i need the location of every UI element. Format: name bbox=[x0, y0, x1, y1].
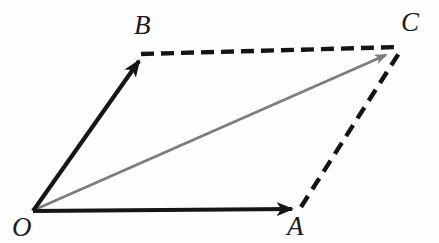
vector-parallelogram-figure: O A B C bbox=[0, 0, 439, 243]
dashed-edge-AC bbox=[301, 50, 401, 207]
point-label-C: C bbox=[401, 9, 419, 36]
point-label-B: B bbox=[134, 12, 151, 39]
vector-OA bbox=[33, 209, 292, 211]
figure-canvas bbox=[0, 0, 439, 243]
dashed-edge-BC bbox=[141, 47, 400, 54]
point-label-A: A bbox=[287, 213, 304, 240]
point-label-O: O bbox=[12, 214, 32, 241]
